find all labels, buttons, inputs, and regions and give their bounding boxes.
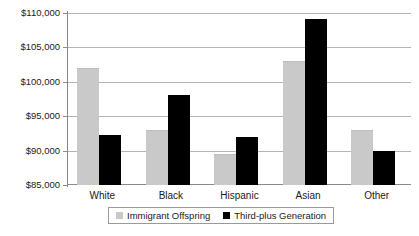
bar-group-other: [342, 13, 411, 185]
legend-label: Third-plus Generation: [234, 211, 326, 221]
bar-group-black: [137, 13, 206, 185]
legend-entry-immigrant-offspring: Immigrant Offspring: [116, 211, 210, 221]
bar-immigrant-offspring: [146, 130, 168, 185]
bar-third-plus-generation: [305, 19, 327, 186]
x-tick-label-asian: Asian: [274, 190, 343, 201]
y-tick-label: $110,000: [0, 8, 60, 18]
x-tick-label-black: Black: [137, 190, 206, 201]
bar-immigrant-offspring: [351, 130, 373, 185]
bar-group-hispanic: [205, 13, 274, 185]
y-tick-label: $100,000: [0, 77, 60, 87]
bar-immigrant-offspring: [283, 61, 305, 185]
y-tick-label: $95,000: [0, 111, 60, 121]
y-axis-labels: $110,000 $105,000 $100,000 $95,000 $90,0…: [0, 0, 62, 236]
legend-swatch-icon: [116, 212, 123, 219]
bar-group-white: [68, 13, 137, 185]
legend-label: Immigrant Offspring: [127, 211, 210, 221]
chart-legend: Immigrant Offspring Third-plus Generatio…: [108, 207, 334, 224]
bar-third-plus-generation: [99, 135, 121, 185]
legend-entry-third-plus-generation: Third-plus Generation: [223, 211, 326, 221]
x-tick-label-hispanic: Hispanic: [205, 190, 274, 201]
bar-immigrant-offspring: [214, 154, 236, 185]
y-tick-label: $90,000: [0, 146, 60, 156]
bar-chart: $110,000 $105,000 $100,000 $95,000 $90,0…: [0, 0, 419, 236]
y-tick-label: $105,000: [0, 42, 60, 52]
plot-area: [68, 13, 411, 185]
bar-third-plus-generation: [373, 151, 395, 185]
x-tick-label-white: White: [68, 190, 137, 201]
bar-third-plus-generation: [168, 95, 190, 185]
bar-immigrant-offspring: [77, 68, 99, 185]
y-tick-label: $85,000: [0, 180, 60, 190]
bar-third-plus-generation: [236, 137, 258, 185]
x-tick-label-other: Other: [342, 190, 411, 201]
bar-group-asian: [274, 13, 343, 185]
legend-swatch-icon: [223, 212, 230, 219]
